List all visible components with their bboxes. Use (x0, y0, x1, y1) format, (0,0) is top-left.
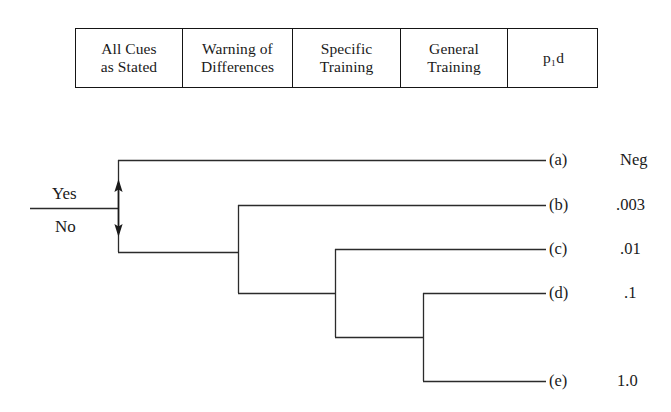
leaf-value-b: .003 (616, 197, 645, 214)
decision-label-yes: Yes (52, 185, 77, 202)
decision-tree-figure: All Cuesas Stated Warning ofDifferences … (0, 0, 671, 412)
leaf-tag-d: (d) (549, 285, 568, 302)
leaf-tag-c: (c) (549, 241, 567, 258)
decision-label-no: No (55, 218, 76, 235)
leaf-tag-a: (a) (549, 152, 567, 169)
leaf-value-c: .01 (620, 241, 641, 258)
leaf-tag-b: (b) (549, 197, 568, 214)
leaf-value-e: 1.0 (617, 373, 638, 390)
leaf-tag-e: (e) (549, 373, 567, 390)
leaf-value-d: .1 (624, 285, 636, 302)
leaf-value-a: Neg (620, 152, 648, 169)
tree-lines (0, 0, 671, 412)
